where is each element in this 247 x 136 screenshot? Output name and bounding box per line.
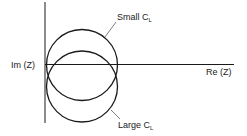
- small-cl-label: Small CL: [117, 12, 153, 23]
- small-cl-leader: [105, 22, 116, 37]
- x-axis-label: Re (Z): [206, 67, 232, 77]
- large-cl-leader: [111, 110, 120, 119]
- y-axis-label: Im (Z): [11, 60, 35, 70]
- large-cl-label: Large CL: [118, 120, 154, 131]
- large-cl-circle: [47, 51, 118, 122]
- impedance-diagram: Small CL Large CL Im (Z) Re (Z): [0, 0, 247, 136]
